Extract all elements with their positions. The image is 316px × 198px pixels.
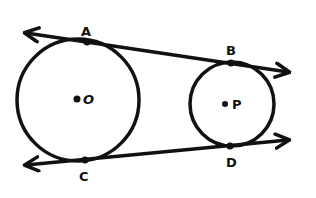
- diagram-svg: [0, 0, 316, 198]
- label-o: O: [83, 93, 94, 106]
- center-p-dot: [222, 101, 228, 107]
- point-b-dot: [228, 60, 235, 67]
- point-c-dot: [82, 157, 89, 164]
- point-a-dot: [84, 39, 91, 46]
- label-d: D: [226, 156, 237, 169]
- tangent-line-cd: [26, 140, 288, 165]
- label-a: A: [81, 25, 91, 38]
- tangent-line-ab: [26, 33, 288, 72]
- label-b: B: [226, 44, 236, 57]
- label-p: P: [232, 98, 242, 111]
- point-d-dot: [227, 143, 234, 150]
- diagram-canvas: A B C D O P: [0, 0, 316, 198]
- center-o-dot: [74, 96, 81, 103]
- label-c: C: [79, 170, 89, 183]
